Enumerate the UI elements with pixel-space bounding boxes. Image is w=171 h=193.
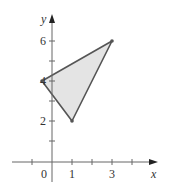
x-tick-label-0: 0	[41, 167, 47, 181]
vertex-point	[70, 119, 74, 123]
y-axis-label: y	[40, 12, 47, 26]
y-tick-label-6: 6	[40, 34, 46, 48]
vertex-point	[110, 39, 114, 43]
x-axis-arrow-icon	[149, 159, 158, 165]
y-tick-label-4: 4	[40, 74, 46, 88]
x-tick-label-1: 1	[69, 167, 75, 181]
coordinate-diagram: 0 1 3 x 2 4 6 y	[0, 0, 171, 193]
x-tick-label-3: 3	[109, 167, 115, 181]
y-axis-arrow-icon	[49, 14, 55, 23]
x-axis-label: x	[150, 167, 157, 181]
y-tick-label-2: 2	[40, 114, 46, 128]
